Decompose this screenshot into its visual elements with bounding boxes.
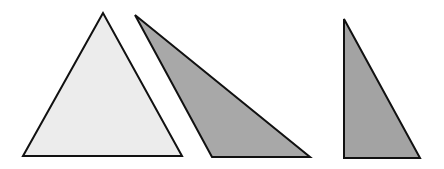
triangles-diagram [0,0,444,169]
triangles-figure [0,0,444,169]
right-triangle [344,19,420,158]
